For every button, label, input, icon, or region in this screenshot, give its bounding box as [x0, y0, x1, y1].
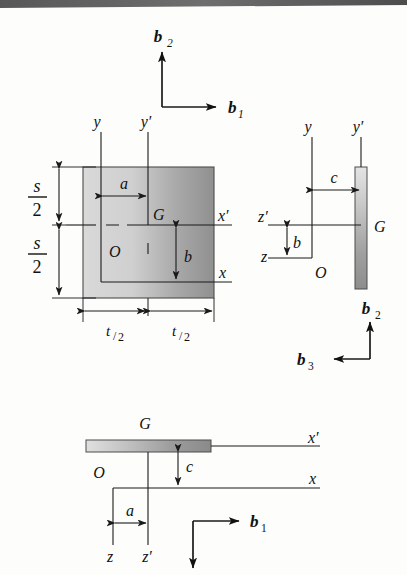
label-x-top: x [308, 470, 316, 487]
b2-label-top: b [154, 27, 163, 46]
label-z-top: z [106, 548, 114, 565]
label-centroid-side: G [374, 218, 386, 235]
b1-sublabel-bottom: 1 [261, 522, 267, 534]
label-yprime-side: y′ [351, 118, 364, 136]
b3-sublabel-right: 3 [308, 360, 314, 372]
b2-sublabel-right: 2 [375, 309, 381, 321]
label-y-front: y [91, 113, 101, 131]
engineering-figure: b 2 b 1 s 2 [0, 0, 407, 575]
b3-label-right: b [297, 350, 306, 369]
dim-b-label-side: b [293, 234, 301, 251]
dim-c-label-top: c [186, 458, 193, 475]
figure-canvas: b 2 b 1 s 2 [0, 0, 407, 575]
s-upper-numerator: s [33, 176, 40, 196]
label-centroid-top: G [139, 415, 151, 432]
dim-c-label-side: c [330, 169, 337, 186]
b2-label-right: b [362, 299, 371, 318]
b2-sublabel-top: 2 [167, 37, 173, 49]
label-origin-top: O [93, 464, 105, 481]
label-zprime-top: z′ [141, 548, 152, 565]
t-right-denominator: 2 [184, 330, 190, 344]
label-x-front: x [218, 264, 226, 281]
b1-label-bottom: b [250, 512, 259, 531]
b1-label-top: b [228, 98, 237, 117]
b1-sublabel-top: 1 [238, 108, 244, 120]
label-origin-side: O [315, 264, 327, 281]
label-xprime-top: x′ [307, 429, 319, 446]
dim-a-label-top: a [126, 502, 134, 519]
label-yprime-front: y′ [139, 113, 152, 131]
label-zprime-side: z′ [257, 208, 268, 225]
thin-plate-top [86, 440, 211, 452]
dim-a-label-front: a [120, 175, 128, 192]
label-xprime-front: x′ [217, 207, 229, 224]
thin-plate-side [355, 167, 367, 289]
dim-b-label-front: b [184, 248, 192, 265]
label-origin-front: O [109, 243, 121, 260]
label-centroid-front: G [153, 206, 165, 223]
s-lower-numerator: s [33, 233, 40, 253]
s-lower-denominator: 2 [33, 257, 42, 277]
t-left-denominator: 2 [118, 330, 124, 344]
label-z-side: z [260, 248, 268, 265]
s-upper-denominator: 2 [33, 200, 42, 220]
label-y-side: y [302, 118, 312, 136]
